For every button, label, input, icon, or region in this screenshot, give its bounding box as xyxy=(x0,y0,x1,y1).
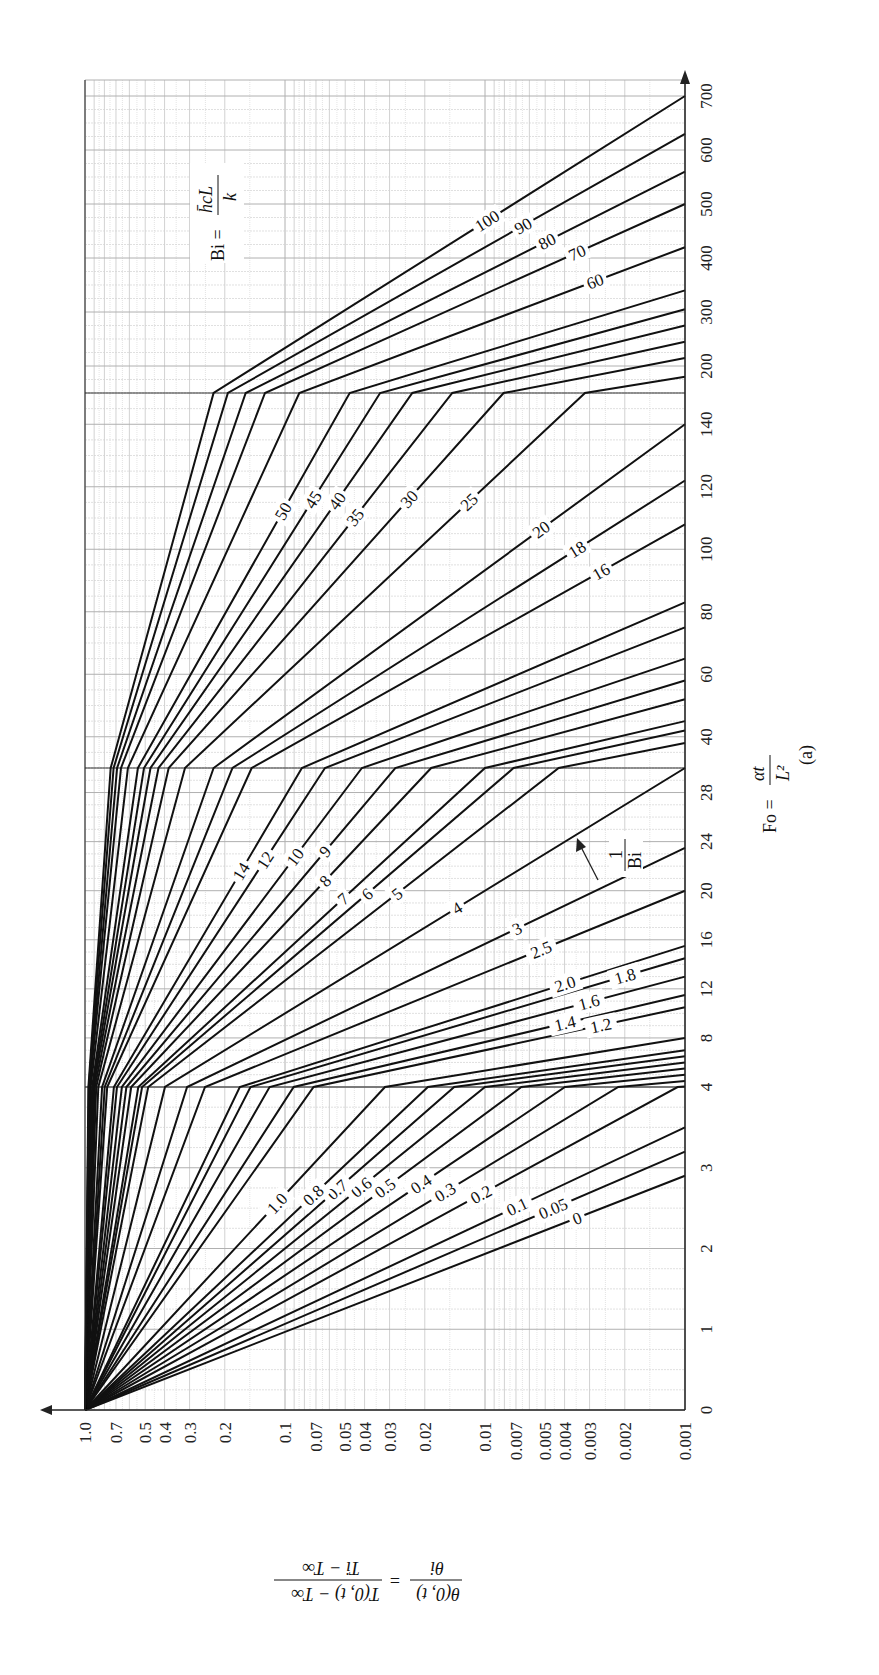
curve-label-90: 90 xyxy=(508,211,539,240)
svg-text:0.05: 0.05 xyxy=(336,1422,355,1452)
svg-text:3: 3 xyxy=(697,1164,716,1173)
curve-label-1.8: 1.8 xyxy=(607,962,643,990)
theta-tick: 0.01 xyxy=(476,1422,495,1452)
fo-left-text: Fo = xyxy=(760,799,780,833)
svg-text:8: 8 xyxy=(697,1034,716,1043)
theta-tick: 0.005 xyxy=(536,1422,555,1460)
fo-tick: 20 xyxy=(697,882,716,899)
inv-bi-num: 1 xyxy=(606,850,626,859)
svg-text:100: 100 xyxy=(697,537,716,563)
curve-label-2.5: 2.5 xyxy=(522,934,559,965)
svg-text:1: 1 xyxy=(697,1325,716,1334)
curve-label-2.0: 2.0 xyxy=(547,970,584,999)
svg-text:20: 20 xyxy=(529,517,554,542)
svg-text:0.2: 0.2 xyxy=(216,1422,235,1443)
svg-text:120: 120 xyxy=(697,474,716,500)
svg-text:2: 2 xyxy=(697,1244,716,1253)
curve-label-16: 16 xyxy=(586,557,617,586)
svg-text:0.4: 0.4 xyxy=(156,1422,175,1444)
curve-label-20: 20 xyxy=(525,514,556,544)
inverse-bi-arrow xyxy=(576,838,598,880)
theta-tick: 0.1 xyxy=(276,1422,295,1443)
svg-text:0.03: 0.03 xyxy=(381,1422,400,1452)
svg-text:0.1: 0.1 xyxy=(276,1422,295,1443)
svg-text:0: 0 xyxy=(697,1406,716,1415)
curve-label-100: 100 xyxy=(468,204,506,238)
curve-label-5: 5 xyxy=(385,881,410,907)
fo-denominator-text: L² xyxy=(773,765,793,782)
fo-tick: 24 xyxy=(697,833,716,851)
fo-tick: 400 xyxy=(697,245,716,271)
theta-tick: 0.07 xyxy=(307,1422,326,1452)
svg-text:1.2: 1.2 xyxy=(589,1014,614,1037)
curve-label-3: 3 xyxy=(505,916,528,941)
bi-numerator-text: h̄cL xyxy=(196,186,216,213)
fo-tick: 1 xyxy=(697,1325,716,1334)
fo-tick: 80 xyxy=(697,603,716,620)
svg-text:60: 60 xyxy=(697,666,716,683)
svg-text:0.007: 0.007 xyxy=(507,1422,526,1461)
inverse-bi-label: 1 Bi xyxy=(606,831,645,877)
fo-tick: 200 xyxy=(697,353,716,379)
svg-text:400: 400 xyxy=(697,245,716,271)
fo-tick: 12 xyxy=(697,980,716,997)
theta-tick: 0.002 xyxy=(616,1422,635,1460)
theta-tick: 0.3 xyxy=(181,1422,200,1443)
curve-set xyxy=(85,96,685,1410)
fo-tick: 500 xyxy=(697,191,716,217)
fo-tick: 2 xyxy=(697,1244,716,1253)
fo-tick: 300 xyxy=(697,299,716,325)
theta-tick: 0.03 xyxy=(381,1422,400,1452)
svg-text:600: 600 xyxy=(697,137,716,163)
theta-tick: 0.4 xyxy=(156,1422,175,1444)
fo-tick: 100 xyxy=(697,537,716,563)
fo-tick: 40 xyxy=(697,728,716,745)
curve-100 xyxy=(85,96,685,1410)
svg-text:40: 40 xyxy=(697,728,716,745)
svg-text:24: 24 xyxy=(697,833,716,851)
theta-tick: 0.003 xyxy=(581,1422,600,1460)
svg-text:0.005: 0.005 xyxy=(536,1422,555,1460)
caption-text: (a) xyxy=(796,745,817,765)
svg-text:0.07: 0.07 xyxy=(307,1422,326,1452)
fo-tick: 120 xyxy=(697,474,716,500)
fo-tick: 16 xyxy=(697,931,716,948)
svg-text:0.7: 0.7 xyxy=(107,1422,126,1444)
svg-text:0.04: 0.04 xyxy=(356,1422,375,1452)
svg-text:1.0: 1.0 xyxy=(76,1422,95,1443)
svg-text:300: 300 xyxy=(697,299,716,325)
svg-text:40: 40 xyxy=(325,489,350,514)
svg-text:16: 16 xyxy=(697,931,716,948)
theta-tick: 0.2 xyxy=(216,1422,235,1443)
heisler-chart: 00.050.10.20.30.40.50.60.70.81.01.21.41.… xyxy=(0,0,879,1675)
fo-tick: 3 xyxy=(697,1164,716,1173)
svg-text:200: 200 xyxy=(697,353,716,379)
fo-tick: 600 xyxy=(697,137,716,163)
svg-text:0.3: 0.3 xyxy=(181,1422,200,1443)
curve-50 xyxy=(85,290,685,1410)
fo-tick: 28 xyxy=(697,784,716,801)
svg-text:0.004: 0.004 xyxy=(556,1422,575,1461)
bi-definition-label: Bi = h̄cL k xyxy=(190,163,244,263)
curve-9 xyxy=(85,681,685,1411)
svg-text:0.002: 0.002 xyxy=(616,1422,635,1460)
curve-0 xyxy=(85,1176,685,1410)
curve-label-1.2: 1.2 xyxy=(583,1012,618,1038)
svg-text:700: 700 xyxy=(697,83,716,109)
curve-label-70: 70 xyxy=(562,239,592,267)
theta-tick: 0.5 xyxy=(136,1422,155,1443)
svg-text:80: 80 xyxy=(697,603,716,620)
svg-text:4: 4 xyxy=(697,1082,716,1091)
fo-tick: 4 xyxy=(697,1082,716,1091)
curve-label-45: 45 xyxy=(298,484,328,515)
svg-text:0.01: 0.01 xyxy=(476,1422,495,1452)
svg-text:0.02: 0.02 xyxy=(416,1422,435,1452)
theta-tick: 0.02 xyxy=(416,1422,435,1452)
theta-den-left: θi xyxy=(430,1558,444,1578)
theta-num-left: θ(0, t) xyxy=(416,1583,460,1604)
svg-text:0.5: 0.5 xyxy=(136,1422,155,1443)
svg-text:140: 140 xyxy=(697,412,716,438)
fo-tick: 0 xyxy=(697,1406,716,1415)
svg-text:500: 500 xyxy=(697,191,716,217)
fo-tick: 8 xyxy=(697,1034,716,1043)
